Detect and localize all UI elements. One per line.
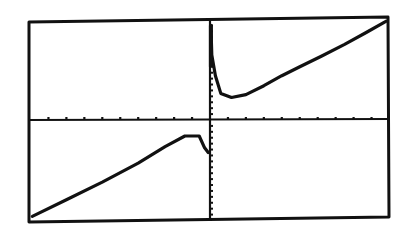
left-branch-curve xyxy=(32,136,208,216)
right-branch-curve xyxy=(211,21,386,97)
x-axis xyxy=(29,119,388,120)
calculator-graph-screen xyxy=(0,0,419,244)
function-plot xyxy=(0,0,419,244)
